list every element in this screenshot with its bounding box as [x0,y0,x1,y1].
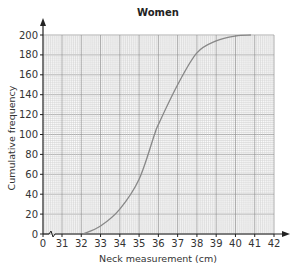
y-axis-label: Cumulative frequency [6,85,17,190]
x-tick-label: 0 [40,238,46,249]
x-tick-label: 41 [248,238,261,249]
x-tick-label: 36 [152,238,165,249]
x-tick-label: 35 [133,238,146,249]
y-tick-label: 180 [19,49,38,60]
x-tick-label: 40 [229,238,242,249]
x-tick-label: 37 [171,238,184,249]
y-tick-label: 40 [25,189,38,200]
y-tick-label: 160 [19,69,38,80]
grid [43,35,274,234]
x-tick-label: 32 [75,238,88,249]
x-tick-label: 34 [113,238,126,249]
y-tick-label: 200 [19,30,38,41]
x-axis-label: Neck measurement (cm) [99,253,217,264]
y-tick-label: 100 [19,129,38,140]
x-tick-label: 31 [56,238,69,249]
y-tick-label: 140 [19,89,38,100]
x-tick-label: 33 [94,238,107,249]
x-tick-label: 42 [268,238,281,249]
x-tick-label: 38 [191,238,204,249]
chart-title: Women [137,7,179,18]
cumulative-frequency-chart: Women 020406080100120140160180200 031323… [0,0,295,271]
x-tick-labels: 0313233343536373839404142 [40,238,281,249]
x-tick-label: 39 [210,238,223,249]
y-tick-label: 60 [25,169,38,180]
y-tick-label: 20 [25,209,38,220]
y-tick-label: 120 [19,109,38,120]
y-tick-label: 0 [32,229,38,240]
y-tick-labels: 020406080100120140160180200 [19,30,38,240]
y-tick-label: 80 [25,149,38,160]
